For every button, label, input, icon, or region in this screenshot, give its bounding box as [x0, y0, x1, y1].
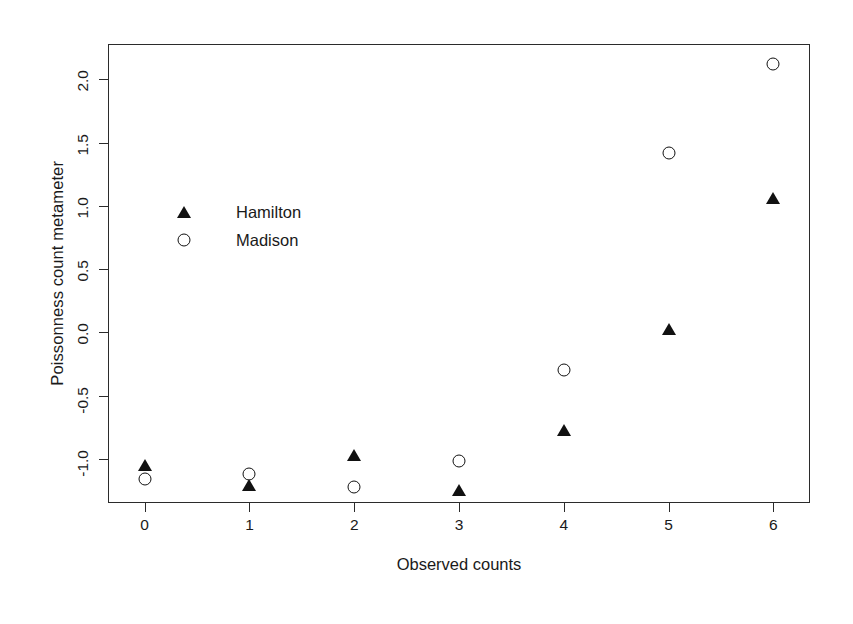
y-tick-label-text: 1.5 [74, 134, 92, 156]
data-point-hamilton [662, 323, 676, 335]
y-tick-mark [99, 206, 108, 207]
data-point-hamilton [766, 192, 780, 204]
data-point-madison [557, 364, 570, 377]
x-tick-label: 1 [245, 516, 254, 534]
y-tick-mark [99, 332, 108, 333]
legend-triangle-marker-icon [177, 206, 191, 218]
legend-circle-marker-icon [178, 234, 191, 247]
data-point-hamilton [557, 424, 571, 436]
x-tick-label: 5 [664, 516, 673, 534]
y-tick-mark [99, 79, 108, 80]
y-tick-label-text: 0.5 [74, 260, 92, 282]
y-tick-label-text: 2.0 [74, 70, 92, 92]
y-tick-label-text: 1.0 [74, 197, 92, 219]
data-point-hamilton [452, 484, 466, 496]
legend-label-madison: Madison [236, 226, 298, 254]
x-axis-title-text: Observed counts [397, 555, 522, 573]
x-tick-mark [249, 503, 250, 512]
data-point-madison [348, 480, 361, 493]
y-tick-mark [99, 396, 108, 397]
y-tick-mark [99, 459, 108, 460]
x-tick-label: 3 [455, 516, 464, 534]
data-point-madison [662, 146, 675, 159]
x-axis-title: Observed counts [108, 555, 810, 574]
y-tick-label-text: -0.5 [74, 387, 92, 414]
y-axis-title: Poissonness count metameter [44, 44, 70, 503]
data-point-madison [243, 467, 256, 480]
x-tick-mark [354, 503, 355, 512]
x-tick-label: 4 [559, 516, 568, 534]
data-point-madison [767, 58, 780, 71]
data-point-hamilton [347, 449, 361, 461]
plot-area: -1.0-0.50.00.51.01.52.0 0123456 [108, 44, 810, 503]
x-tick-mark [145, 503, 146, 512]
y-axis-title-text: Poissonness count metameter [48, 161, 67, 386]
x-tick-label: 6 [769, 516, 778, 534]
x-tick-mark [773, 503, 774, 512]
data-point-hamilton [138, 459, 152, 471]
y-tick-label-text: -1.0 [74, 450, 92, 477]
x-tick-mark [564, 503, 565, 512]
x-tick-label: 2 [350, 516, 359, 534]
data-point-madison [453, 455, 466, 468]
x-tick-label: 0 [140, 516, 149, 534]
x-tick-mark [459, 503, 460, 512]
poissonness-plot-figure: Poissonness count metameter -1.0-0.50.00… [0, 0, 853, 624]
y-tick-label-text: 0.0 [74, 323, 92, 345]
y-tick-mark [99, 269, 108, 270]
data-point-hamilton [242, 479, 256, 491]
data-point-madison [138, 472, 151, 485]
legend-label-hamilton: Hamilton [236, 198, 301, 226]
x-tick-mark [669, 503, 670, 512]
y-tick-mark [99, 143, 108, 144]
